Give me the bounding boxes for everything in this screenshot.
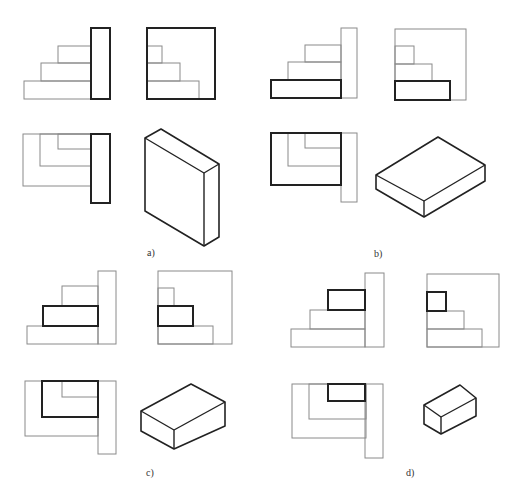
top-view — [23, 134, 110, 203]
part-outline — [427, 329, 482, 347]
part-outline — [58, 134, 91, 149]
panel-a: a) — [23, 28, 219, 259]
part-outline — [310, 310, 365, 329]
part-outline — [291, 329, 365, 347]
orthographic-views-figure: a) b) c) d) — [0, 0, 528, 498]
part-outline — [158, 271, 232, 344]
side-view — [147, 28, 215, 99]
part-outline — [23, 134, 91, 186]
front-view — [291, 273, 384, 347]
highlighted-part-outline — [328, 384, 365, 401]
part-outline — [24, 81, 91, 99]
panel-label-d: d) — [406, 467, 414, 479]
highlighted-part-outline — [271, 80, 341, 98]
part-outline — [305, 45, 341, 62]
part-outline — [288, 62, 341, 80]
part-outline — [395, 64, 432, 81]
isometric-block-outline — [141, 384, 225, 449]
front-view — [27, 271, 116, 344]
part-outline — [341, 28, 357, 98]
highlighted-part-outline — [91, 134, 110, 203]
top-view — [25, 381, 116, 454]
isometric-block-outline — [145, 129, 219, 246]
isometric-block-outline — [424, 385, 476, 434]
panel-label-a: a) — [147, 247, 155, 259]
highlighted-part-outline — [328, 290, 365, 310]
isometric-view — [424, 385, 476, 434]
part-outline — [62, 381, 98, 397]
part-outline — [365, 273, 384, 347]
part-outline — [341, 133, 357, 202]
part-outline — [62, 286, 98, 306]
highlighted-part-outline — [395, 81, 450, 100]
isometric-view — [376, 137, 485, 217]
highlighted-part-outline — [427, 292, 446, 311]
panel-label-c: c) — [146, 467, 154, 479]
highlighted-part-outline — [271, 133, 341, 185]
part-outline — [27, 326, 98, 344]
isometric-view — [141, 384, 225, 449]
part-outline — [40, 134, 91, 166]
panel-b: b) — [271, 28, 485, 260]
side-view — [395, 29, 466, 100]
side-view — [158, 271, 232, 344]
part-outline — [427, 311, 464, 329]
part-outline — [305, 133, 341, 148]
part-outline — [365, 384, 383, 458]
highlighted-part-outline — [43, 306, 98, 326]
highlighted-part-outline — [91, 28, 110, 99]
panel-d: d) — [291, 273, 499, 479]
part-outline — [98, 271, 116, 344]
front-view — [24, 28, 110, 99]
top-view — [271, 133, 357, 202]
part-outline — [147, 81, 199, 99]
panel-c: c) — [25, 271, 232, 479]
side-view — [427, 274, 499, 347]
panel-label-b: b) — [374, 248, 382, 260]
part-outline — [288, 133, 341, 166]
part-outline — [158, 288, 174, 306]
part-outline — [158, 326, 213, 344]
part-outline — [147, 63, 180, 81]
highlighted-part-outline — [42, 381, 98, 417]
part-outline — [58, 46, 91, 63]
part-outline — [41, 63, 91, 81]
part-outline — [98, 381, 116, 454]
highlighted-part-outline — [158, 306, 193, 326]
isometric-view — [145, 129, 219, 246]
part-outline — [147, 46, 162, 63]
part-outline — [395, 46, 414, 64]
isometric-block-outline — [376, 137, 485, 217]
top-view — [292, 384, 383, 458]
front-view — [271, 28, 357, 98]
